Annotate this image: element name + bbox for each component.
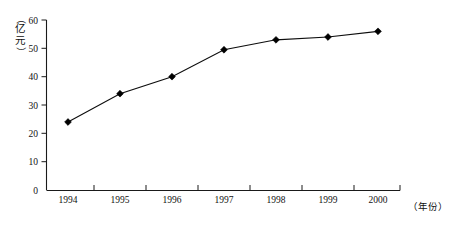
data-series <box>65 28 382 125</box>
line-chart-plot: 60 50 40 30 20 10 0 1994 1995 1996 1997 … <box>0 0 454 225</box>
chart-container: （ 亿 元 ） 60 50 40 30 20 10 0 <box>0 0 454 225</box>
y-tick-label-60: 60 <box>29 16 39 26</box>
x-tick-label-1997: 1997 <box>215 195 234 205</box>
x-tick-label-1998: 1998 <box>267 195 286 205</box>
data-point-1996 <box>169 73 176 80</box>
data-point-1995 <box>117 90 124 97</box>
x-tick-label-1994: 1994 <box>59 195 78 205</box>
data-point-1997 <box>221 46 228 53</box>
y-tick-label-20: 20 <box>29 129 39 139</box>
y-tick-label-10: 10 <box>29 157 39 167</box>
data-point-1998 <box>273 36 280 43</box>
data-point-1994 <box>65 119 72 126</box>
data-point-markers <box>65 28 382 125</box>
y-tick-label-50: 50 <box>29 44 39 54</box>
series-line-path <box>68 31 378 122</box>
data-point-1999 <box>325 34 332 41</box>
x-axis: 1994 1995 1996 1997 1998 1999 2000 <box>47 185 401 205</box>
y-tick-label-30: 30 <box>29 101 39 111</box>
y-tick-label-0: 0 <box>33 186 38 196</box>
x-tick-label-2000: 2000 <box>369 195 388 205</box>
x-tick-label-1995: 1995 <box>111 195 130 205</box>
x-tick-label-1999: 1999 <box>319 195 338 205</box>
y-tick-label-40: 40 <box>29 72 39 82</box>
data-point-2000 <box>375 28 382 35</box>
x-axis-label: （年份） <box>408 201 448 212</box>
y-axis: 60 50 40 30 20 10 0 <box>29 16 47 196</box>
x-tick-label-1996: 1996 <box>163 195 182 205</box>
